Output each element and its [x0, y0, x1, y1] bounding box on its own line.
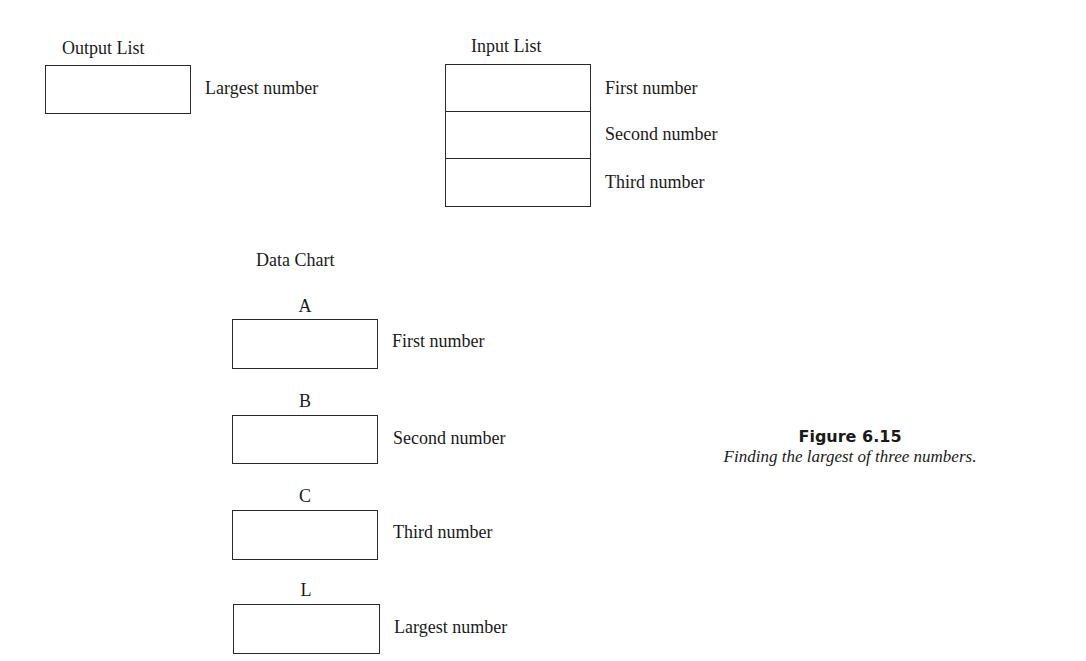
input-list-cell-second: [446, 112, 590, 159]
variable-l-name: L: [233, 580, 379, 601]
variable-b-name: B: [232, 391, 378, 412]
figure-number: Figure 6.15: [670, 427, 1030, 446]
variable-a-name: A: [232, 296, 378, 317]
variable-b-box: [232, 415, 378, 464]
variable-a-label: First number: [392, 331, 485, 352]
figure-caption: Figure 6.15 Finding the largest of three…: [670, 427, 1030, 467]
variable-a-box: [232, 319, 378, 369]
output-list-label-largest: Largest number: [205, 78, 318, 99]
input-list-title: Input List: [471, 36, 542, 57]
variable-l-label: Largest number: [394, 617, 507, 638]
input-list-box: [445, 64, 591, 207]
input-list-cell-first: [446, 65, 590, 112]
variable-b-label: Second number: [393, 428, 505, 449]
variable-c-label: Third number: [393, 522, 492, 543]
input-list-label-third: Third number: [605, 172, 704, 193]
figure-caption-text: Finding the largest of three numbers.: [670, 447, 1030, 467]
variable-l-box: [233, 604, 380, 654]
data-chart-title: Data Chart: [256, 250, 334, 271]
variable-c-box: [232, 510, 378, 560]
output-list-title: Output List: [62, 38, 145, 59]
input-list-label-first: First number: [605, 78, 698, 99]
output-list-box: [45, 65, 191, 114]
input-list-cell-third: [446, 159, 590, 206]
variable-c-name: C: [232, 486, 378, 507]
input-list-label-second: Second number: [605, 124, 717, 145]
